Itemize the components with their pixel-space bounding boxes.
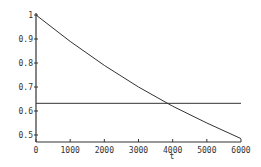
x-tick-label: 3000 <box>129 146 148 155</box>
y-tick-label: 0.5 <box>19 131 34 140</box>
y-tick-label: 0.9 <box>19 35 34 44</box>
x-tick-label: 5000 <box>197 146 216 155</box>
x-tick-label: 0 <box>34 146 39 155</box>
line-chart: 01000200030004000500060000.50.60.70.80.9… <box>0 0 261 167</box>
y-tick-label: 1 <box>28 11 33 20</box>
x-axis-label: t <box>170 152 175 161</box>
x-tick-label: 1000 <box>61 146 80 155</box>
y-tick-label: 0.8 <box>19 59 34 68</box>
y-tick-label: 0.6 <box>19 107 34 116</box>
y-tick-label: 0.7 <box>19 83 34 92</box>
x-tick-label: 6000 <box>231 146 250 155</box>
x-tick-label: 2000 <box>95 146 114 155</box>
decay-curve-line <box>36 15 241 139</box>
